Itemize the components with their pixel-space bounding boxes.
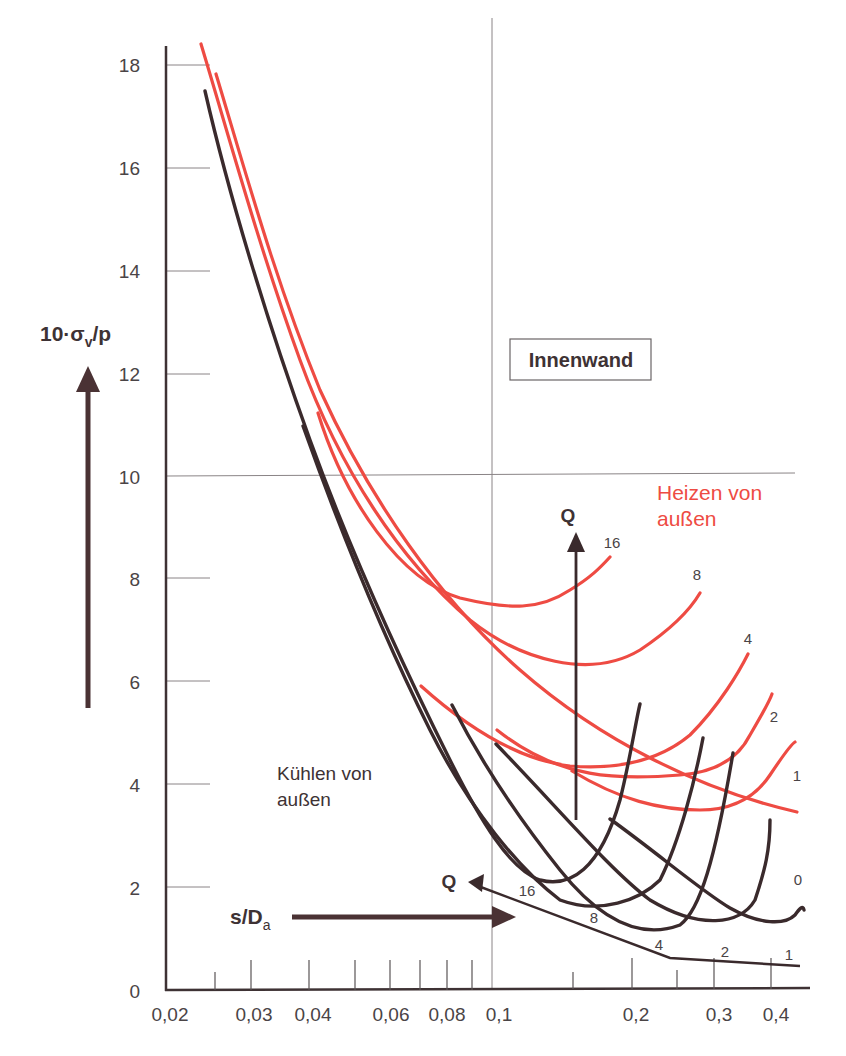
x-axis <box>165 988 810 990</box>
svg-text:4: 4 <box>744 630 752 647</box>
svg-text:0,3: 0,3 <box>706 1004 732 1025</box>
svg-text:0,2: 0,2 <box>623 1004 649 1025</box>
svg-text:4: 4 <box>129 775 140 796</box>
svg-text:4: 4 <box>655 936 663 953</box>
innenwand-label: Innenwand <box>529 349 633 371</box>
svg-text:18: 18 <box>119 55 140 76</box>
heating-curves <box>201 44 797 858</box>
svg-text:14: 14 <box>119 261 141 282</box>
heating-label-line2: außen <box>657 507 717 530</box>
svg-text:0,08: 0,08 <box>429 1004 466 1025</box>
x-ticks <box>215 958 771 990</box>
x-axis-arrowhead <box>492 906 516 928</box>
svg-text:2: 2 <box>770 708 778 725</box>
x-tick-labels: 0,02 0,03 0,04 0,06 0,08 0,1 0,2 0,3 0,4 <box>152 1004 790 1025</box>
svg-text:0,1: 0,1 <box>486 1004 512 1025</box>
cooling-label-line1: Kühlen von <box>277 763 372 784</box>
svg-text:0,4: 0,4 <box>763 1004 790 1025</box>
svg-text:8: 8 <box>590 909 598 926</box>
svg-text:0,04: 0,04 <box>295 1004 332 1025</box>
svg-text:2: 2 <box>721 943 729 960</box>
heating-label-line1: Heizen von <box>657 481 762 504</box>
svg-text:16: 16 <box>119 158 140 179</box>
y-tick-labels: 18 16 14 12 10 8 6 4 2 0 <box>119 55 141 1002</box>
svg-text:6: 6 <box>129 672 140 693</box>
svg-text:1: 1 <box>793 767 801 784</box>
cool-curve-labels: 16 8 4 2 1 <box>519 882 794 963</box>
svg-text:12: 12 <box>119 364 140 385</box>
q-up-label: Q <box>561 505 576 526</box>
svg-text:2: 2 <box>129 878 140 899</box>
svg-text:1: 1 <box>785 946 793 963</box>
y-axis-title: 10·σv/p <box>40 322 111 350</box>
q-left-arrowhead <box>468 874 484 892</box>
svg-text:0: 0 <box>794 871 802 888</box>
svg-text:0,03: 0,03 <box>236 1004 273 1025</box>
y-axis-arrowhead <box>76 366 100 392</box>
gridline-y10 <box>166 473 795 476</box>
q-left-label: Q <box>442 871 457 892</box>
svg-text:0,06: 0,06 <box>373 1004 410 1025</box>
svg-text:10: 10 <box>119 467 140 488</box>
svg-text:0,02: 0,02 <box>152 1004 189 1025</box>
grid <box>166 18 795 990</box>
q-up-arrowhead <box>567 532 585 552</box>
svg-text:8: 8 <box>129 569 140 590</box>
x-axis-title: s/Da <box>230 905 271 933</box>
heat-curve-0 <box>216 74 797 812</box>
stress-chart: 18 16 14 12 10 8 6 4 2 0 0,02 0,03 0,04 … <box>0 0 846 1056</box>
svg-text:16: 16 <box>604 534 621 551</box>
svg-text:16: 16 <box>519 882 536 899</box>
svg-text:8: 8 <box>693 566 701 583</box>
cool-curve-8 <box>303 426 703 906</box>
cooling-label-line2: außen <box>277 789 331 810</box>
svg-text:0: 0 <box>129 981 140 1002</box>
